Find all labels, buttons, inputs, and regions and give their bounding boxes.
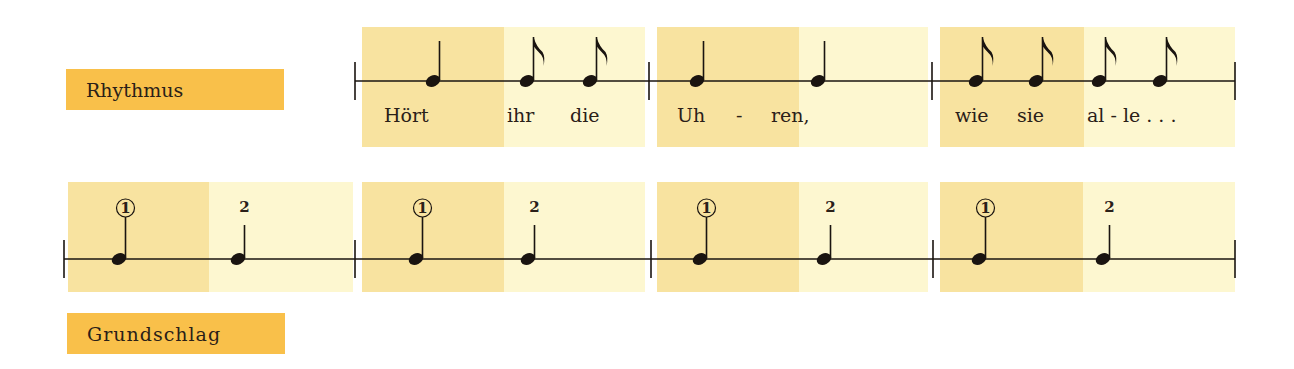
beat-label-text: Grundschlag [87,323,221,345]
beat-number: 2 [529,198,539,216]
strong-beat-area [68,182,209,292]
strong-beat-area [657,182,799,292]
lyric-syllable: Uh [677,104,705,126]
lyric-syllable: Hört [384,104,429,126]
lyric-syllable: die [570,104,599,126]
weak-beat-area [799,27,928,147]
rhythm-label-text: Rhythmus [86,79,183,101]
weak-beat-area [504,27,645,147]
beat-number: 1 [701,199,711,217]
beat-number: 1 [980,199,990,217]
lyric-syllable: al - le . . . [1087,104,1176,126]
strong-beat-area [657,27,799,147]
lyric-syllable: wie [955,104,989,126]
strong-beat-area [362,182,504,292]
beat-number: 2 [825,198,835,216]
weak-beat-area [799,182,928,292]
weak-beat-area [209,182,353,292]
lyric-syllable: ren, [771,104,810,126]
lyric-syllable: ihr [507,104,535,126]
beat-label: Grundschlag [67,313,285,354]
beat-number: 1 [417,199,427,217]
strong-beat-area [940,27,1084,147]
beat-number: 2 [1104,198,1114,216]
weak-beat-area [504,182,645,292]
lyric-syllable: - [736,104,742,126]
strong-beat-area [940,182,1083,292]
strong-beat-area [362,27,504,147]
rhythm-label: Rhythmus [66,69,284,110]
beat-number: 2 [239,198,249,216]
lyric-syllable: sie [1017,104,1044,126]
beat-number: 1 [120,199,130,217]
